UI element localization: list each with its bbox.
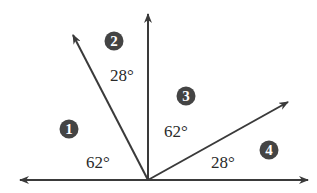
angle-badge-3: 3 — [177, 87, 196, 106]
badge-number: 1 — [65, 121, 73, 137]
angle-label-4: 28° — [211, 153, 235, 172]
angle-label-3: 62° — [164, 122, 188, 141]
angle-label-1: 62° — [86, 153, 110, 172]
badge-number: 4 — [265, 142, 273, 158]
angle-diagram: 1234 62°28°62°28° — [0, 0, 317, 193]
left-slanted-ray — [73, 35, 148, 180]
angle-badge-2: 2 — [105, 32, 124, 51]
badge-number: 3 — [182, 88, 190, 104]
angle-label-2: 28° — [110, 66, 134, 85]
diagram-svg: 1234 62°28°62°28° — [0, 0, 317, 193]
badge-number: 2 — [110, 33, 118, 49]
angle-badge-4: 4 — [260, 141, 279, 160]
angle-badge-1: 1 — [60, 120, 79, 139]
labels-group: 62°28°62°28° — [86, 66, 235, 172]
